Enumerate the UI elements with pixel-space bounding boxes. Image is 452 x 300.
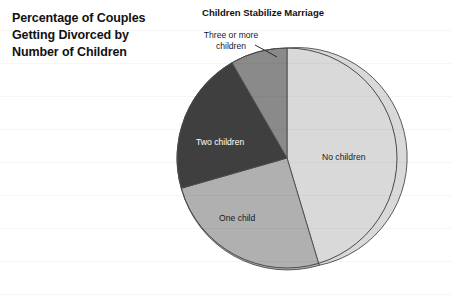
pie-label-three-or-more-line-2: children xyxy=(185,41,277,52)
pie-label-two-children: Two children xyxy=(196,137,244,147)
figure-caption-line-2: Getting Divorced by xyxy=(12,27,192,44)
pie-label-three-or-more-line-1: Three or more xyxy=(185,30,277,41)
figure-caption-line-3: Number of Children xyxy=(12,44,192,61)
pie-label-no-children: No children xyxy=(322,152,365,162)
pie-label-three-or-more-children: Three or more children xyxy=(185,30,277,52)
pie-label-one-child: One child xyxy=(219,213,255,223)
chart-title: Children Stabilize Marriage xyxy=(0,7,452,18)
